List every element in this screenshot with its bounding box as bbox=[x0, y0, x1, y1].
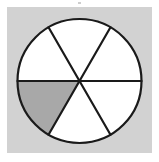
circle-diagram bbox=[0, 0, 159, 162]
fraction-circle-figure bbox=[0, 0, 159, 162]
